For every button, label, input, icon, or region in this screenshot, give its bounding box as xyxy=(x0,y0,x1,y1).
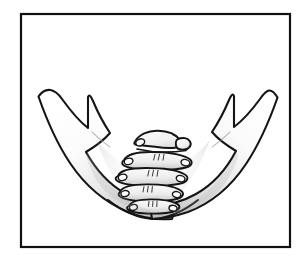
right-thumb-tip xyxy=(176,138,191,150)
finger-row-2 xyxy=(116,168,188,186)
finger-row-1 xyxy=(122,152,192,170)
illustration-figure: Interlaced clasped hands Line drawing of… xyxy=(0,0,306,263)
clasped-hands-drawing xyxy=(0,0,306,263)
